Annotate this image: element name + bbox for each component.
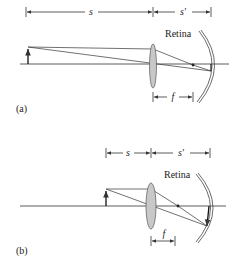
object-distance-label-b: s — [126, 147, 130, 158]
focal-length-label-b: f — [163, 228, 167, 239]
retina-a — [197, 30, 215, 103]
panel-a: s s′ Retina f (a) — [16, 6, 229, 115]
retina-label-b: Retina — [164, 169, 191, 180]
retina-label-a: Retina — [165, 28, 192, 39]
focal-point-a — [192, 64, 195, 67]
focal-length-label-a: f — [172, 91, 176, 102]
object-distance-label-a: s — [89, 6, 93, 17]
panel-label-a: (a) — [16, 103, 27, 115]
panel-b: s s′ Retina f (b) — [16, 147, 226, 257]
light-rays-a — [28, 47, 211, 71]
lens-b — [146, 183, 156, 229]
panel-label-b: (b) — [16, 245, 28, 257]
image-distance-label-b: s′ — [178, 147, 185, 158]
light-rays-b — [106, 189, 207, 226]
distance-dimensions-b — [106, 148, 210, 158]
focal-point-b — [177, 205, 180, 208]
image-distance-label-a: s′ — [180, 6, 187, 17]
eye-optics-diagram: s s′ Retina f (a) — [0, 0, 239, 266]
lens-a — [150, 44, 157, 88]
retina-b — [196, 173, 213, 243]
